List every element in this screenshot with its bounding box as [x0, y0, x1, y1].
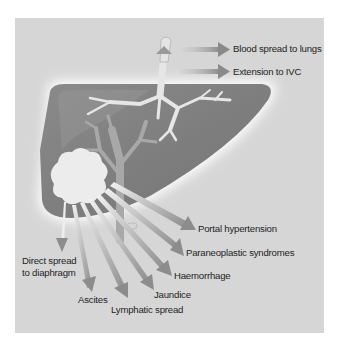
label-ascites: Ascites: [78, 294, 108, 305]
label-portal-hypertension: Portal hypertension: [198, 223, 277, 234]
ivc-vessel: [156, 37, 172, 62]
arrow-ivc: [180, 64, 230, 79]
label-diaphragm-line1: Direct spread: [22, 255, 76, 266]
label-diaphragm-line2: to diaphragm: [22, 267, 76, 278]
label-blood-spread: Blood spread to lungs: [233, 43, 322, 54]
label-haemorrhage: Haemorrhage: [174, 270, 230, 281]
label-lymphatic-spread: Lymphatic spread: [111, 304, 183, 315]
arrow-blood-spread: [182, 42, 230, 57]
label-jaundice: Jaundice: [154, 289, 191, 300]
label-ivc: Extension to IVC: [233, 66, 302, 77]
liver-diagram: Blood spread to lungs Extension to IVC P…: [0, 0, 338, 347]
label-paraneoplastic: Paraneoplastic syndromes: [186, 247, 295, 258]
